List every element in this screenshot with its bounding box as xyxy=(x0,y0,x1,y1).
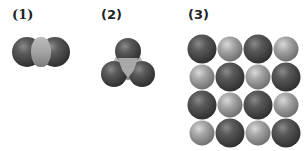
light-ion-icon xyxy=(190,121,215,146)
light-ion-icon xyxy=(274,93,299,118)
dark-ion-icon xyxy=(272,63,301,92)
molecule-diagram xyxy=(0,0,308,151)
dark-ion-icon xyxy=(216,119,245,148)
dark-ion-icon xyxy=(188,35,217,64)
dark-ion-icon xyxy=(244,91,273,120)
lattice-grid xyxy=(188,35,301,148)
light-ion-icon xyxy=(218,93,243,118)
dark-ion-icon xyxy=(272,119,301,148)
light-ion-icon xyxy=(246,65,271,90)
dark-ion-icon xyxy=(244,35,273,64)
light-ion-icon xyxy=(218,37,243,62)
light-ion-icon xyxy=(190,65,215,90)
molecule-1-linear xyxy=(12,37,70,67)
dark-ion-icon xyxy=(188,91,217,120)
light-ion-icon xyxy=(246,121,271,146)
light-ion-icon xyxy=(274,37,299,62)
dark-ion-icon xyxy=(216,63,245,92)
light-atom-icon xyxy=(31,37,51,67)
molecule-2-trigonal xyxy=(101,38,155,87)
